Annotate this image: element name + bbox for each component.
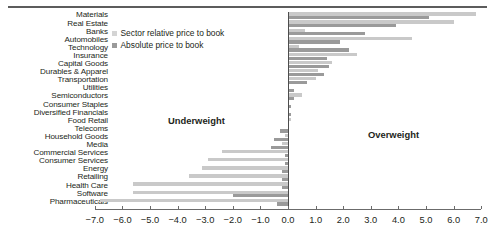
bar-sector-relative (189, 174, 288, 177)
annotation-underweight: Underweight (168, 115, 225, 126)
bar-absolute (288, 81, 307, 84)
top-divider-rule (8, 6, 487, 8)
legend-label-absolute: Absolute price to book (121, 40, 204, 52)
bar-absolute (274, 138, 288, 141)
bar-absolute (288, 24, 396, 27)
x-axis-tick (454, 206, 455, 209)
chart-legend: Sector relative price to book Absolute p… (112, 28, 224, 51)
x-axis-tick (426, 206, 427, 209)
bar-absolute (288, 65, 329, 68)
legend-swatch-icon-sector-relative (112, 31, 117, 36)
bar-row: Pharmaceuticals (0, 198, 495, 206)
x-axis-tick (178, 206, 179, 209)
legend-item-sector-relative: Sector relative price to book (112, 28, 224, 40)
category-label: Pharmaceuticals (8, 198, 108, 206)
legend-swatch-icon-absolute (112, 43, 117, 48)
x-axis-tick (398, 206, 399, 209)
bar-absolute (288, 73, 324, 76)
bar-absolute (288, 32, 365, 35)
x-axis-tick (260, 206, 261, 209)
x-axis-tick (205, 206, 206, 209)
legend-item-absolute: Absolute price to book (112, 40, 224, 52)
bar-sector-relative (133, 182, 288, 185)
bar-rows-container: MaterialsReal EstateBanksAutomobilesTech… (0, 12, 495, 215)
x-axis-line (95, 209, 481, 210)
bar-absolute (277, 202, 288, 205)
bar-absolute (280, 129, 288, 132)
bar-sector-relative (202, 166, 288, 169)
bar-absolute (271, 146, 288, 149)
bar-sector-relative (208, 158, 288, 161)
bar-absolute (288, 48, 349, 51)
bar-absolute (288, 40, 340, 43)
x-axis-tick (122, 206, 123, 209)
zero-axis-line (288, 12, 289, 209)
x-axis-tick (95, 206, 96, 209)
plot-area: MaterialsReal EstateBanksAutomobilesTech… (0, 12, 495, 215)
x-axis-tick-label: 7.0 (464, 215, 495, 225)
x-axis-tick (288, 206, 289, 209)
annotation-overweight: Overweight (368, 129, 419, 140)
bar-absolute (288, 57, 327, 60)
x-axis-tick (481, 206, 482, 209)
x-axis-tick (371, 206, 372, 209)
x-axis-tick (233, 206, 234, 209)
x-axis-tick (150, 206, 151, 209)
bar-absolute (288, 16, 429, 19)
bar-sector-relative (222, 150, 288, 153)
bar-sector-relative (100, 199, 288, 202)
legend-label-sector-relative: Sector relative price to book (121, 28, 225, 40)
bar-absolute (233, 194, 288, 197)
x-axis-tick (316, 206, 317, 209)
x-axis-tick (343, 206, 344, 209)
chart-figure: MaterialsReal EstateBanksAutomobilesTech… (0, 0, 495, 247)
